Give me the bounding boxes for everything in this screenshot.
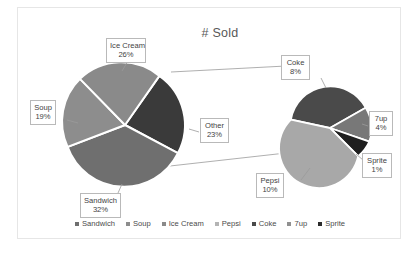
- legend-swatch-soup: [126, 222, 130, 226]
- connector-lines: [170, 66, 286, 166]
- data-label-soup[interactable]: Soup 19%: [30, 100, 56, 125]
- data-label-coke-name: Coke: [287, 58, 305, 67]
- data-label-7up-percent: 4%: [373, 123, 389, 132]
- data-label-7up[interactable]: 7up 4%: [369, 111, 393, 136]
- leader-other: [189, 129, 199, 132]
- data-label-other-name: Other: [205, 121, 224, 130]
- legend-item-ice-cream[interactable]: Ice Cream: [162, 219, 204, 228]
- connector-line-top: [171, 66, 286, 72]
- legend-item-sprite[interactable]: Sprite: [318, 219, 345, 228]
- chart-legend: Sandwich Soup Ice Cream Pepsi Coke 7up S…: [18, 219, 402, 228]
- data-label-sandwich-name: Sandwich: [84, 196, 117, 205]
- data-label-sprite-percent: 1%: [366, 165, 388, 174]
- legend-swatch-sandwich: [75, 222, 79, 226]
- data-label-sandwich[interactable]: Sandwich 32%: [80, 193, 121, 218]
- data-label-coke[interactable]: Coke 8%: [281, 55, 310, 80]
- secondary-pie: [279, 86, 371, 188]
- data-label-ice-cream-percent: 26%: [110, 50, 142, 59]
- data-label-ice-cream-name: Ice Cream: [110, 41, 145, 50]
- legend-label-pepsi: Pepsi: [222, 219, 241, 228]
- data-label-other-percent: 23%: [204, 130, 225, 139]
- data-label-pepsi-percent: 10%: [260, 185, 280, 194]
- data-label-soup-name: Soup: [34, 103, 52, 112]
- legend-label-ice-cream: Ice Cream: [169, 219, 204, 228]
- legend-label-sandwich: Sandwich: [82, 219, 115, 228]
- data-label-pepsi[interactable]: Pepsi 10%: [256, 173, 284, 198]
- data-label-sprite-name: Sprite: [367, 156, 387, 165]
- primary-pie: [62, 62, 185, 186]
- legend-swatch-coke: [252, 222, 256, 226]
- legend-swatch-pepsi: [215, 222, 219, 226]
- legend-swatch-sprite: [318, 222, 322, 226]
- legend-item-soup[interactable]: Soup: [126, 219, 151, 228]
- data-label-sandwich-percent: 32%: [84, 205, 117, 214]
- data-label-sprite[interactable]: Sprite 1%: [362, 153, 392, 178]
- legend-label-7up: 7up: [294, 219, 307, 228]
- legend-item-7up[interactable]: 7up: [287, 219, 307, 228]
- legend-label-sprite: Sprite: [325, 219, 345, 228]
- data-label-ice-cream[interactable]: Ice Cream 26%: [106, 38, 146, 63]
- data-label-coke-percent: 8%: [285, 67, 306, 76]
- data-label-7up-name: 7up: [375, 114, 388, 123]
- legend-item-coke[interactable]: Coke: [252, 219, 277, 228]
- data-label-other[interactable]: Other 23%: [200, 118, 229, 143]
- legend-item-sandwich[interactable]: Sandwich: [75, 219, 115, 228]
- chart-frame: # Sold: [17, 7, 401, 239]
- legend-label-coke: Coke: [259, 219, 277, 228]
- legend-swatch-ice-cream: [162, 222, 166, 226]
- legend-item-pepsi[interactable]: Pepsi: [215, 219, 241, 228]
- data-label-soup-percent: 19%: [34, 112, 52, 121]
- data-label-pepsi-name: Pepsi: [261, 176, 280, 185]
- legend-label-soup: Soup: [133, 219, 151, 228]
- legend-swatch-7up: [287, 222, 291, 226]
- connector-line-bottom: [170, 153, 286, 166]
